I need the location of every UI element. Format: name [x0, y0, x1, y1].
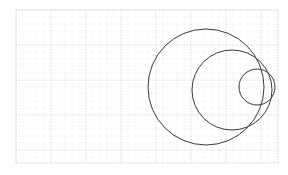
figure-root — [0, 0, 288, 175]
plot-canvas — [0, 0, 288, 175]
